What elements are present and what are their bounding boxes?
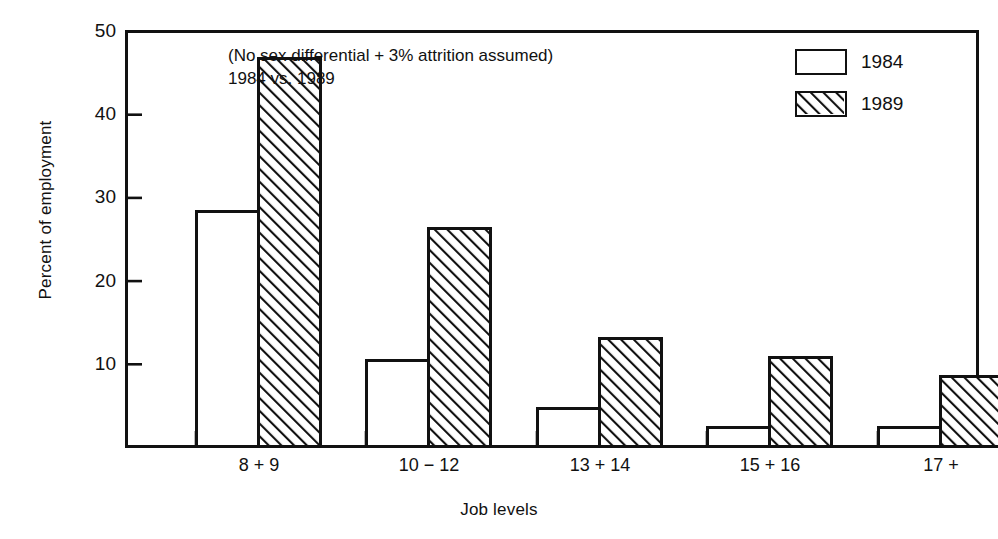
bar-1984 [879, 428, 941, 447]
x-tick-label: 15 + 16 [690, 455, 850, 476]
bar-1984 [197, 212, 259, 447]
legend-item-1984: 1984 [795, 45, 903, 79]
x-axis-title: Job levels [0, 500, 998, 520]
bar-1984 [708, 428, 770, 447]
x-tick-label: 17 + [861, 455, 998, 476]
x-axis-tick-labels: 8 + 9 10 − 12 13 + 14 15 + 16 17 + [126, 455, 978, 485]
legend-swatch-hatched-box-icon [795, 91, 847, 117]
bar-1984 [367, 361, 429, 447]
bar-1989 [429, 229, 491, 447]
y-axis-ticks [126, 32, 142, 365]
legend-swatch-empty-box-icon [795, 49, 847, 75]
annotation-line-1: (No sex differential + 3% attrition assu… [228, 44, 553, 67]
x-tick-label: 13 + 14 [520, 455, 680, 476]
bar-chart-figure: Percent of employment 50 40 30 20 10 [0, 0, 998, 539]
chart-legend: 1984 1989 [795, 45, 903, 129]
bar-1989 [600, 339, 662, 447]
legend-label: 1984 [861, 51, 903, 73]
bar-group [708, 358, 832, 447]
bar-1984 [538, 409, 600, 447]
chart-annotation: (No sex differential + 3% attrition assu… [228, 44, 553, 91]
bar-group [879, 428, 941, 447]
legend-label: 1989 [861, 93, 903, 115]
bar-group [367, 229, 491, 447]
annotation-line-2: 1984 vs. 1989 [228, 67, 553, 90]
x-tick-label: 8 + 9 [179, 455, 339, 476]
legend-item-1989: 1989 [795, 87, 903, 121]
bar-group [538, 339, 662, 447]
x-tick-label: 10 − 12 [349, 455, 509, 476]
bar-1989 [770, 358, 832, 447]
bar-group [197, 59, 321, 447]
bar-1989 [259, 59, 321, 447]
